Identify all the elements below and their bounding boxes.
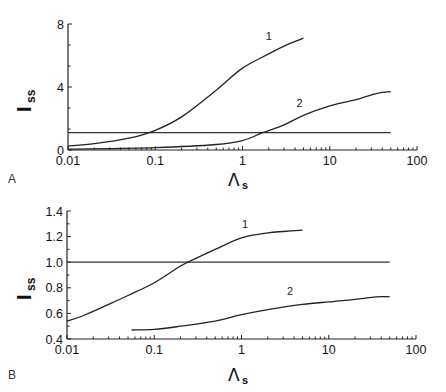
curve-2 [132,297,390,330]
panel-b-ylabel-main: I [13,294,35,300]
x-tick-label: 1 [239,154,246,168]
panel-b-xlabel-sub: s [242,374,248,386]
y-tick-label: 0.6 [46,307,63,321]
x-tick-label: 100 [406,343,427,357]
panel-a-plot: 0.010.111010004812 [56,18,428,169]
panel-a-ylabel: I ss [13,89,38,112]
y-tick-label: 1.4 [46,205,63,219]
x-tick-label: 10 [323,154,337,168]
y-tick-label: 4 [57,81,64,95]
panel-a-letter: A [8,172,16,186]
curve-label: 2 [287,285,293,297]
x-tick-label: 0.1 [147,154,164,168]
curve-label: 1 [266,30,272,42]
y-tick-label: 0 [57,144,64,158]
panel-a-ylabel-sub: ss [24,89,38,103]
panel-b-ylabel: I ss [13,277,38,300]
y-tick-label: 8 [57,18,64,32]
x-tick-label: 1 [238,343,245,357]
y-tick-label: 0.8 [46,281,63,295]
panel-b-plot: 0.010.11101000.40.60.81.01.21.412 [46,205,427,358]
panel-a-xlabel-main: Λ [228,170,240,190]
figure: 0.010.111010004812 0.010.11101000.40.60.… [0,0,446,392]
y-tick-label: 1.2 [46,230,63,244]
panel-b-xlabel-main: Λ [228,365,240,385]
y-tick-label: 1.0 [46,256,63,270]
y-tick-label: 0.4 [46,333,63,347]
panel-b-letter: B [8,368,16,382]
x-tick-label: 100 [407,154,428,168]
curve-label: 2 [296,97,302,109]
curve-label: 1 [242,218,248,230]
x-tick-label: 0.1 [146,343,163,357]
panel-b-ylabel-sub: ss [24,277,38,291]
panel-a-ylabel-main: I [13,106,35,112]
panel-a-xlabel-sub: s [242,179,248,191]
x-tick-label: 10 [322,343,336,357]
curve-1 [67,230,303,321]
curve-1 [68,38,304,146]
